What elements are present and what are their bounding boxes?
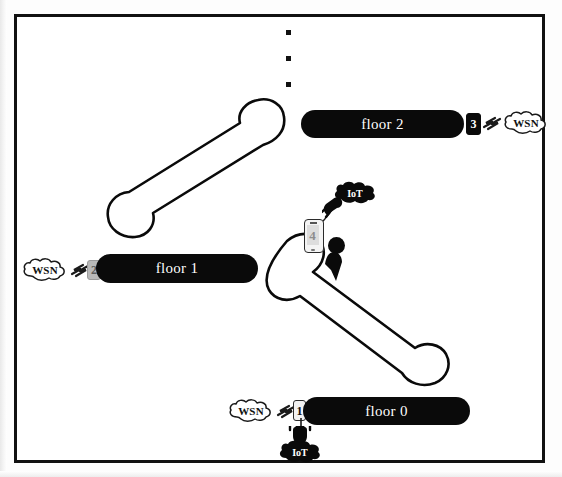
stairs-lower-icon: [255, 228, 460, 393]
vertical-ellipsis-icon: [286, 30, 294, 86]
floor-bar-floor-2[interactable]: floor 2: [301, 110, 464, 138]
wsn-cloud-floor-1[interactable]: WSN: [22, 258, 68, 282]
wsn-cloud-floor-0-label: WSN: [228, 399, 274, 423]
floor-bar-floor-0[interactable]: floor 0: [303, 397, 470, 425]
phone-badge-4: 4: [309, 229, 316, 242]
phone-screen: 4: [307, 225, 319, 245]
floor-bar-floor-1[interactable]: floor 1: [96, 254, 258, 283]
gateway-badge-1-value: 1: [297, 405, 303, 417]
iot-cloud-mobile-label: IoT: [333, 181, 377, 205]
scan-artifact-bottom: [0, 471, 562, 477]
floor-label-floor-1: floor 1: [156, 261, 199, 276]
phone-speaker-icon: [310, 222, 317, 224]
scan-artifact-left: [0, 0, 7, 477]
user-body-icon: [322, 252, 348, 282]
smartphone-device[interactable]: 4: [304, 219, 324, 253]
wireless-signal-icon-floor-2: [482, 114, 504, 132]
iot-cloud-mobile[interactable]: IoT: [333, 181, 377, 205]
iot-cloud-floor-0[interactable]: IoT: [278, 440, 322, 464]
wsn-cloud-floor-2-label: WSN: [503, 111, 549, 135]
phone-home-button[interactable]: [311, 249, 315, 251]
wsn-cloud-floor-0[interactable]: WSN: [228, 399, 274, 423]
diagram-canvas: floor 2 3 WSN IoT 4: [0, 0, 562, 477]
floor-label-floor-0: floor 0: [365, 404, 408, 419]
wsn-cloud-floor-2[interactable]: WSN: [503, 111, 549, 135]
wsn-cloud-floor-1-label: WSN: [22, 258, 68, 282]
iot-cloud-floor-0-label: IoT: [278, 440, 322, 464]
gateway-badge-3-value: 3: [471, 118, 477, 130]
floor-label-floor-2: floor 2: [361, 117, 404, 132]
gateway-badge-3[interactable]: 3: [466, 113, 481, 135]
